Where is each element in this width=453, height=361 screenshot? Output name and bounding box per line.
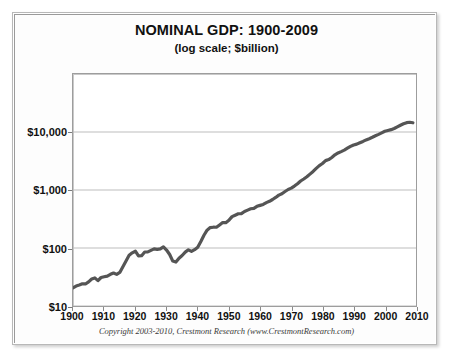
plot-area (72, 73, 417, 307)
y-axis-labels: $10$100$1,000$10,000 (5, 73, 67, 307)
y-tick-label: $10,000 (7, 126, 67, 138)
y-tick-mark (68, 307, 72, 308)
chart-figure: NOMINAL GDP: 1900-2009 (log scale; $bill… (0, 0, 453, 361)
y-tick-mark (68, 190, 72, 191)
y-tick-label: $100 (7, 243, 67, 255)
gridlines-group (73, 132, 416, 306)
chart-title: NOMINAL GDP: 1900-2009 (0, 22, 453, 38)
x-axis-labels: 1900191019201930194019501960197019801990… (72, 310, 417, 326)
y-tick-mark (68, 249, 72, 250)
x-tick-label: 2010 (397, 310, 437, 322)
y-tick-mark (68, 132, 72, 133)
copyright-note: Copyright 2003-2010, Crestmont Research … (0, 326, 453, 336)
data-line-svg (73, 74, 416, 306)
y-tick-label: $1,000 (7, 184, 67, 196)
chart-subtitle: (log scale; $billion) (0, 42, 453, 54)
gdp-line-path (73, 122, 413, 288)
